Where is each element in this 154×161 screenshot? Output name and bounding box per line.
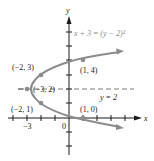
point-1-4 [81,58,86,63]
curve-arrow-top-icon [116,49,124,55]
point-neg2-3 [39,73,44,78]
point-neg2-1 [39,101,44,106]
x-axis-arrow-icon [134,116,142,121]
tick-label-origin: 0 [62,122,66,131]
symmetry-label: y = 2 [99,93,117,102]
point-vertex [25,87,30,92]
point-label: (−2, 1) [11,105,33,114]
point-label: (−3, 2) [33,85,55,94]
y-axis-arrow-icon [67,16,72,24]
tick-label-neg3: −3 [23,122,32,131]
parabola-graph: x + 3 = (y − 2)² y = 2 x y −3 0 (−2, 3) … [0,0,154,161]
point-label: (−2, 3) [12,63,34,72]
point-label: (1, 0) [80,105,98,114]
equation-label: x + 3 = (y − 2)² [73,29,126,38]
x-axis-label: x [143,114,148,123]
y-axis-label: y [65,6,70,15]
point-label: (1, 4) [80,66,98,75]
point-1-0 [81,116,86,121]
curve-arrow-bottom-icon [116,124,124,130]
